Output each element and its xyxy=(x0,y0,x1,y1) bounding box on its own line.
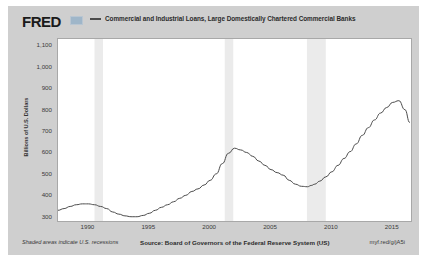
x-tick-label: 1990 xyxy=(81,223,95,230)
y-tick-label: 600 xyxy=(26,148,52,155)
chart-header: FRED Commercial and Industrial Loans, La… xyxy=(8,6,419,36)
series-line xyxy=(58,101,410,217)
legend-line-swatch xyxy=(90,18,101,20)
y-tick-label: 1,000 xyxy=(26,62,52,69)
source-note: Source: Board of Governors of the Federa… xyxy=(140,239,329,246)
y-axis-ticks: 3004005006007008009001,0001,100 xyxy=(22,6,52,255)
fred-graph-mark-icon xyxy=(70,16,83,25)
recession-band xyxy=(307,39,326,221)
chart-footer: Shaded areas indicate U.S. recessions So… xyxy=(8,235,419,255)
series-lines xyxy=(58,101,410,217)
recession-band xyxy=(225,39,234,221)
chart-legend: Commercial and Industrial Loans, Large D… xyxy=(90,15,355,22)
recession-bands xyxy=(95,39,326,221)
plot-area xyxy=(57,38,412,222)
recession-band xyxy=(95,39,104,221)
recession-note: Shaded areas indicate U.S. recessions xyxy=(22,239,118,245)
y-tick-label: 1,100 xyxy=(26,41,52,48)
x-tick-label: 2000 xyxy=(202,223,216,230)
y-tick-label: 400 xyxy=(26,191,52,198)
x-tick-label: 2005 xyxy=(263,223,277,230)
fred-chart-graphic: FRED Commercial and Industrial Loans, La… xyxy=(8,6,419,255)
legend-series-label: Commercial and Industrial Loans, Large D… xyxy=(105,15,355,22)
x-tick-label: 2015 xyxy=(385,223,399,230)
x-tick-label: 1995 xyxy=(141,223,155,230)
y-tick-label: 300 xyxy=(26,212,52,219)
x-tick-label: 2010 xyxy=(324,223,338,230)
series-canvas xyxy=(58,39,411,221)
short-url[interactable]: myf.red/g/jA5i xyxy=(370,239,405,245)
y-tick-label: 900 xyxy=(26,84,52,91)
y-tick-label: 500 xyxy=(26,169,52,176)
y-tick-label: 700 xyxy=(26,127,52,134)
x-axis-ticks: 199019952000200520102015 xyxy=(8,223,419,235)
y-tick-label: 800 xyxy=(26,105,52,112)
